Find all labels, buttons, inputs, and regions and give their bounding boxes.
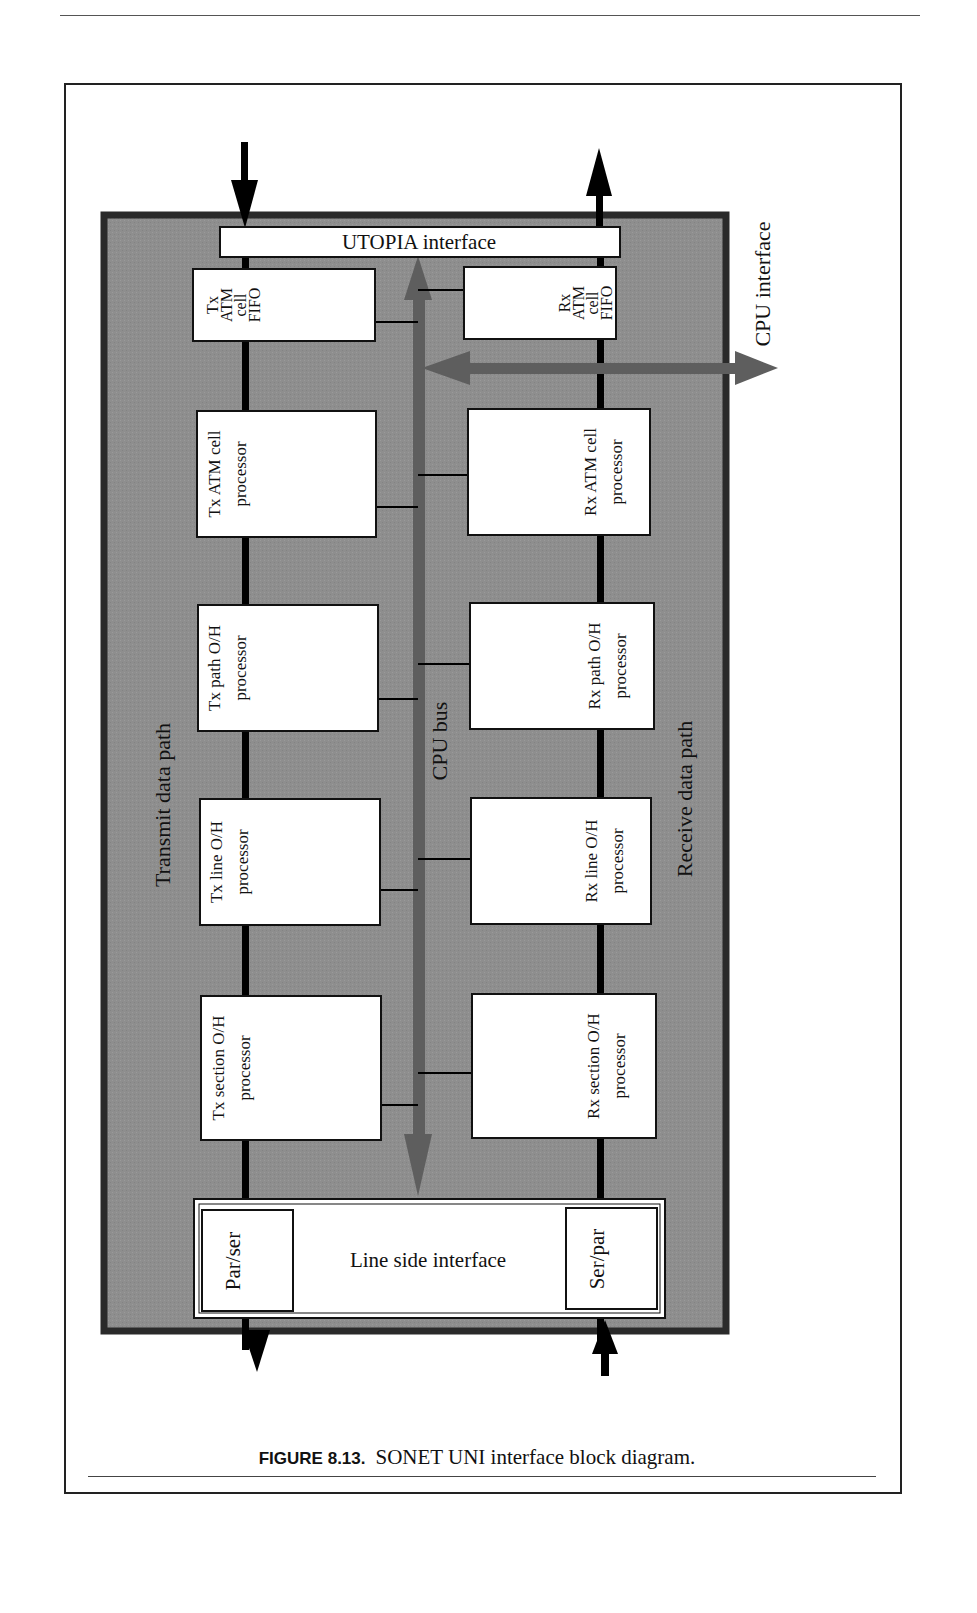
tx-atm-proc-label-1: Tx ATM cell <box>205 430 224 517</box>
tx-line-label-2: processor <box>233 829 252 894</box>
rx-line-oh-processor-block: Rx line O/H processor <box>471 798 651 924</box>
tx-section-oh-processor-block: Tx section O/H processor <box>201 996 381 1140</box>
rx-section-label-2: processor <box>610 1033 629 1098</box>
tx-fifo-label-4: FIFO <box>246 288 263 323</box>
cpu-interface-label: CPU interface <box>750 221 775 346</box>
rx-atm-proc-label-1: Rx ATM cell <box>581 428 600 516</box>
rx-path-label-2: processor <box>611 633 630 698</box>
figure-number: FIGURE 8.13. <box>259 1449 366 1468</box>
par-ser-block: Par/ser <box>202 1210 293 1311</box>
tx-atm-cell-processor-block: Tx ATM cell processor <box>197 411 376 537</box>
cpu-bus-label: CPU bus <box>427 702 452 781</box>
ser-par-label: Ser/par <box>585 1229 609 1290</box>
transmit-data-path-label: Transmit data path <box>150 723 175 887</box>
rx-atm-proc-label-2: processor <box>607 439 626 504</box>
tx-section-label-2: processor <box>235 1035 254 1100</box>
rx-line-label-2: processor <box>608 828 627 893</box>
tx-line-label-1: Tx line O/H <box>207 821 226 903</box>
ser-par-block: Ser/par <box>566 1208 657 1309</box>
tx-atm-proc-label-2: processor <box>231 441 250 506</box>
receive-data-path-label: Receive data path <box>672 721 697 877</box>
utopia-interface-label: UTOPIA interface <box>342 230 496 254</box>
tx-atm-cell-fifo-block: Tx ATM cell FIFO <box>193 269 375 341</box>
rx-data-line <box>597 226 604 1350</box>
output-arrow-bottom-icon <box>243 1330 270 1372</box>
rx-section-label-1: Rx section O/H <box>584 1013 603 1119</box>
rx-section-oh-processor-block: Rx section O/H processor <box>472 994 656 1138</box>
tx-data-line <box>242 226 249 1350</box>
rx-line-label-1: Rx line O/H <box>582 819 601 902</box>
figure-caption-text: SONET UNI interface block diagram. <box>376 1445 696 1469</box>
tx-path-label-1: Tx path O/H <box>205 625 224 711</box>
rx-path-oh-processor-block: Rx path O/H processor <box>470 603 654 729</box>
par-ser-label: Par/ser <box>221 1232 245 1290</box>
rx-atm-cell-fifo-block: Rx ATM cell FIFO <box>464 267 616 339</box>
rx-path-label-1: Rx path O/H <box>585 623 604 710</box>
figure-caption: FIGURE 8.13. SONET UNI interface block d… <box>259 1445 696 1469</box>
tx-section-label-1: Tx section O/H <box>209 1016 228 1121</box>
line-side-interface-label: Line side interface <box>350 1248 506 1272</box>
rx-atm-cell-processor-block: Rx ATM cell processor <box>468 409 650 535</box>
rx-fifo-label-4: FIFO <box>598 286 615 321</box>
tx-line-oh-processor-block: Tx line O/H processor <box>200 799 380 925</box>
tx-path-label-2: processor <box>231 635 250 700</box>
tx-path-oh-processor-block: Tx path O/H processor <box>198 605 378 731</box>
sonet-uni-block-diagram: UTOPIA interface Tx ATM cell FIFO Tx ATM… <box>0 0 977 1613</box>
